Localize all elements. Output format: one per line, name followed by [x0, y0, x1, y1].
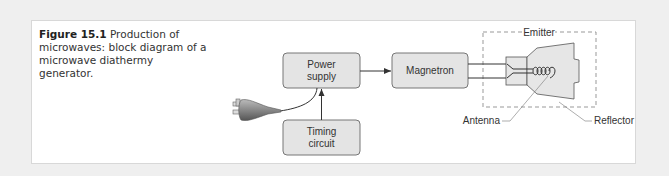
reflector — [506, 43, 579, 99]
emitter-label: Emitter — [523, 27, 555, 38]
magnetron-label: Magnetron — [406, 65, 454, 76]
power-supply-label-2: supply — [307, 71, 336, 82]
reflector-leader — [559, 102, 592, 121]
timing-circuit-label-1: Timing — [307, 126, 337, 137]
antenna-label: Antenna — [463, 115, 501, 126]
timing-circuit-block: Timing circuit — [283, 120, 360, 155]
reflector-label: Reflector — [594, 115, 635, 126]
block-diagram: Power supply Magnetron Timing circuit Em… — [0, 0, 669, 176]
power-supply-label-1: Power — [307, 59, 336, 70]
plug-cable — [280, 88, 317, 111]
timing-circuit-label-2: circuit — [308, 138, 334, 149]
power-supply-block: Power supply — [283, 53, 360, 88]
magnetron-block: Magnetron — [392, 53, 468, 88]
plug-icon — [233, 99, 281, 121]
